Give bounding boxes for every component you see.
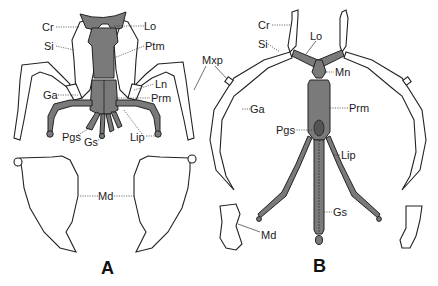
label-maxilla: Mxp bbox=[202, 54, 223, 66]
label-a-galea: Ga bbox=[43, 89, 58, 101]
label-b-galea: Ga bbox=[250, 103, 265, 115]
a-mandible-left bbox=[20, 156, 78, 252]
b-labial-palp-left bbox=[258, 136, 312, 218]
label-b-cardo: Cr bbox=[258, 19, 270, 31]
b-cardo-left bbox=[288, 10, 298, 52]
b-mandible-left bbox=[220, 204, 242, 250]
a-labial-palp-right bbox=[116, 100, 160, 132]
label-b-glossa: Gs bbox=[333, 206, 347, 218]
label-b-mentum: Mn bbox=[335, 66, 350, 78]
diagram-drawing bbox=[0, 0, 438, 286]
label-a-prementum: Prm bbox=[151, 92, 171, 104]
a-lorum bbox=[80, 12, 126, 30]
label-b-lorum: Lo bbox=[310, 30, 322, 42]
a-paraglossa-left bbox=[86, 112, 100, 130]
a-maxillary-palp-left bbox=[14, 62, 70, 140]
label-b-labial-palp: Lip bbox=[341, 149, 356, 161]
label-a-mandible: Md bbox=[98, 190, 113, 202]
a-glossa-left bbox=[100, 114, 105, 134]
b-galea-left bbox=[210, 52, 292, 190]
label-a-labial-notch: Ln bbox=[155, 78, 167, 90]
b-mandible-right bbox=[400, 206, 422, 248]
a-mandible-right bbox=[134, 156, 190, 252]
label-a-lorum: Lo bbox=[144, 20, 156, 32]
label-b-paraglossa: Pgs bbox=[276, 124, 295, 136]
label-a-cardo: Cr bbox=[42, 21, 54, 33]
label-b-mandible: Md bbox=[261, 229, 276, 241]
b-galea-right bbox=[344, 52, 426, 190]
mouthparts-figure: Cr Lo Si Ptm Ln Ga Prm Pgs Gs Lip Md Mxp… bbox=[0, 0, 438, 286]
panel-label-b: B bbox=[313, 256, 326, 277]
label-b-prementum: Prm bbox=[349, 102, 369, 114]
label-b-stipes: Si bbox=[258, 38, 268, 50]
label-a-labial-palp: Lip bbox=[130, 131, 145, 143]
label-a-paraglossa: Pgs bbox=[62, 131, 81, 143]
b-cardo-right bbox=[340, 10, 348, 52]
panel-label-a: A bbox=[101, 258, 114, 279]
label-a-stipes: Si bbox=[44, 40, 54, 52]
label-a-glossa: Gs bbox=[84, 136, 98, 148]
label-a-postmentum: Ptm bbox=[145, 40, 165, 52]
a-labial-palp-left bbox=[48, 100, 92, 132]
